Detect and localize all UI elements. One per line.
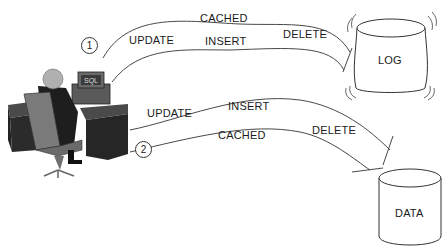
- monitor-sql-text: SQL: [84, 77, 98, 85]
- flow-2-insert-label: INSERT: [228, 100, 269, 112]
- flow-2-cached-label: CACHED: [218, 129, 266, 141]
- flow-1-number: 1: [81, 37, 98, 54]
- flow-1-lower-line: [112, 49, 344, 82]
- flow-1-update-label: UPDATE: [129, 34, 174, 46]
- data-store-label: DATA: [395, 207, 424, 219]
- flow-1-delete-label: DELETE: [283, 28, 327, 40]
- flow-1-insert-label: INSERT: [205, 35, 246, 47]
- flow-2-update-label: UPDATE: [147, 107, 192, 119]
- flow-1-cached-label: CACHED: [200, 12, 248, 24]
- flow-1-tick: [343, 48, 352, 72]
- flow-2-tick-a: [383, 136, 393, 165]
- log-store-label: LOG: [378, 54, 402, 66]
- flow-2-number: 2: [135, 141, 152, 158]
- user-at-desk-icon: SQL: [8, 69, 128, 178]
- flow-2-delete-label: DELETE: [312, 124, 356, 136]
